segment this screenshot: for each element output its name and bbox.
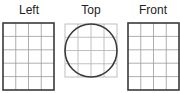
top-view-grid <box>65 24 117 77</box>
front-view-grid <box>128 23 179 90</box>
orthographic-views-drawing <box>0 0 180 93</box>
left-view-grid <box>3 23 54 90</box>
